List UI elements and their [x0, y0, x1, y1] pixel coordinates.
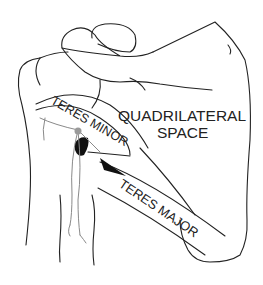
label-teres-major: TERES MAJOR: [116, 176, 201, 240]
label-quadrilateral-space-line1: QUADRILATERAL: [118, 107, 246, 124]
diagram-canvas: QUADRILATERAL SPACE TERES MINOR TERES MA…: [0, 0, 263, 285]
humerus-outline: [60, 195, 95, 265]
scapula-outline: [18, 22, 250, 262]
label-quadrilateral-space-line2: SPACE: [157, 124, 208, 141]
axillary-nerve: [40, 118, 100, 243]
shoulder-anatomy-diagram: QUADRILATERAL SPACE TERES MINOR TERES MA…: [0, 0, 263, 285]
nerve-origin-dot: [75, 128, 82, 135]
